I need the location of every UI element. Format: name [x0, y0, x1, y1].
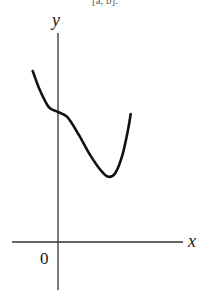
x-axis-label: x	[187, 231, 196, 251]
y-axis-label: y	[50, 10, 60, 30]
function-curve	[33, 71, 131, 177]
top-text-fragment: [a, b].	[92, 0, 118, 6]
function-graph: [a, b]. y x 0	[0, 0, 216, 296]
origin-label: 0	[40, 249, 49, 268]
